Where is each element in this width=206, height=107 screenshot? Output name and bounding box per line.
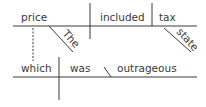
main-subject: price <box>21 11 47 23</box>
main-object: tax <box>159 11 176 23</box>
main-verb: included <box>100 11 145 23</box>
sentence-diagram: price included tax The state which was o… <box>0 0 206 107</box>
subject-modifier: The <box>60 27 83 50</box>
relative-complement: outrageous <box>117 62 177 74</box>
complement-slash <box>104 67 111 77</box>
relative-verb: was <box>70 62 91 74</box>
relative-subject: which <box>21 62 52 74</box>
